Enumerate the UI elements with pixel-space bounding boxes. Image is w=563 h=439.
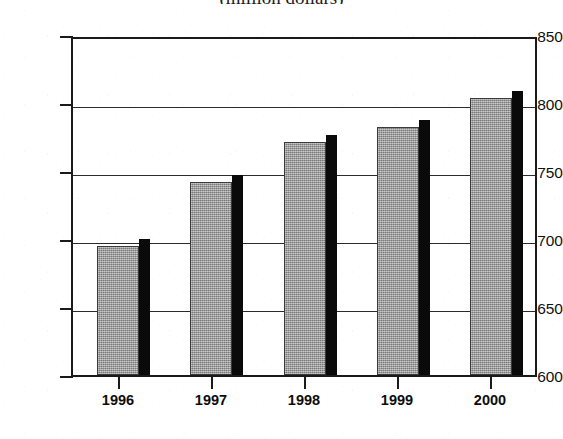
chart-title: (million dollars) <box>0 0 563 4</box>
bar-shadow-1998 <box>326 135 337 375</box>
bar-shadow-1999 <box>419 120 430 375</box>
bar-face-1996 <box>97 246 139 375</box>
bar-face-1997 <box>190 182 232 375</box>
x-tick-label-1998: 1998 <box>254 393 354 408</box>
bar-1997 <box>190 35 243 375</box>
plot-area <box>71 37 537 377</box>
bar-shadow-2000 <box>512 91 523 375</box>
bar-face-2000 <box>470 98 512 375</box>
x-tick-label-1999: 1999 <box>347 393 447 408</box>
bar-shadow-1996 <box>139 239 150 375</box>
bar-1999 <box>377 35 430 375</box>
bar-chart: (million dollars) 600650700750800850 199… <box>0 0 563 439</box>
x-tick-1999 <box>397 377 399 389</box>
x-tick-label-1997: 1997 <box>161 393 261 408</box>
bar-1996 <box>97 35 150 375</box>
bar-face-1999 <box>377 127 419 375</box>
x-tick-label-2000: 2000 <box>440 393 540 408</box>
x-tick-label-1996: 1996 <box>68 393 168 408</box>
x-tick-1997 <box>211 377 213 389</box>
bar-2000 <box>470 35 523 375</box>
bar-shadow-1997 <box>232 175 243 375</box>
x-tick-2000 <box>490 377 492 389</box>
x-tick-1996 <box>118 377 120 389</box>
bar-face-1998 <box>284 142 326 375</box>
x-tick-1998 <box>304 377 306 389</box>
bar-1998 <box>284 35 337 375</box>
